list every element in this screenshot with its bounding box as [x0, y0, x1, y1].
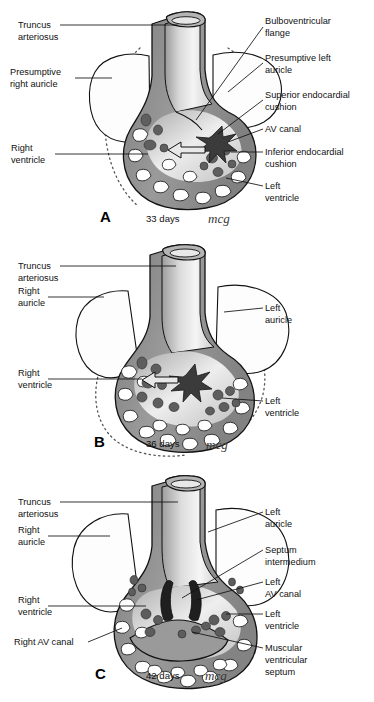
panel-age-a: 33 days — [146, 213, 180, 224]
label-presumptive-left-auricle-a-line2: auricle — [265, 65, 292, 75]
label-right-auricle-b: Right — [18, 286, 40, 296]
label-left-ventricle-a: Left — [265, 181, 281, 191]
label-left-ventricle-a-line2: ventricle — [265, 193, 299, 203]
artist-signature-b: mcg — [206, 437, 228, 452]
embryonic-heart-development-figure: Truncus arteriosus Presumptive right aur… — [0, 0, 374, 702]
label-presumptive-left-auricle-a: Presumptive left — [265, 53, 331, 63]
label-muscular-ventricular-septum-c-line2: ventricular — [265, 655, 307, 665]
label-presumptive-right-auricle-a: Presumptive — [10, 67, 61, 77]
label-muscular-ventricular-septum-c-line3: septum — [265, 667, 295, 677]
label-truncus-arteriosus-a: Truncus — [18, 20, 51, 30]
label-right-auricle-b-line2: auricle — [18, 298, 45, 308]
label-presumptive-right-auricle-a-line2: right auricle — [10, 79, 58, 89]
label-inferior-endocardial-cushion-a-line2: cushion — [265, 159, 297, 169]
label-left-auricle-c-line2: auricle — [265, 519, 292, 529]
label-muscular-ventricular-septum-c: Muscular — [265, 643, 302, 653]
label-truncus-arteriosus-a-line2: arteriosus — [18, 32, 59, 42]
label-left-auricle-b: Left — [265, 303, 281, 313]
label-superior-endocardial-cushion-a: Superior endocardial — [265, 90, 350, 100]
truncus-inner-rim-c — [171, 480, 201, 488]
label-truncus-arteriosus-c: Truncus — [18, 497, 51, 507]
label-superior-endocardial-cushion-a-line2: cushion — [265, 102, 297, 112]
label-truncus-arteriosus-c-line2: arteriosus — [18, 509, 59, 519]
label-inferior-endocardial-cushion-a: Inferior endocardial — [265, 147, 344, 157]
label-left-av-canal-c: Left — [265, 577, 281, 587]
label-truncus-arteriosus-b: Truncus — [18, 261, 51, 271]
label-right-ventricle-a-line2: ventricle — [11, 155, 45, 165]
panel-c: Truncus arteriosus Right auricle Right v… — [0, 470, 374, 702]
label-bulboventricular-flange-a: Bulboventricular — [265, 16, 331, 26]
label-left-ventricle-c: Left — [265, 609, 281, 619]
label-septum-intermedium-c-line2: intermedium — [265, 557, 316, 567]
label-right-ventricle-c: Right — [18, 595, 40, 605]
truncus-inner-rim-b — [170, 249, 200, 257]
label-right-auricle-c-line2: auricle — [18, 537, 45, 547]
label-right-ventricle-b: Right — [18, 368, 40, 378]
label-bulboventricular-flange-a-line2: flange — [265, 28, 290, 38]
label-right-ventricle-c-line2: ventricle — [18, 607, 52, 617]
panel-letter-a: A — [100, 208, 111, 225]
truncus-inner-rim-a — [172, 17, 200, 25]
label-right-av-canal-c: Right AV canal — [14, 637, 74, 647]
artist-signature-c: mcg — [205, 668, 227, 683]
panel-age-b: 36 days — [146, 438, 180, 449]
panel-age-c: 42 days — [146, 670, 180, 681]
panel-b: Truncus arteriosus Right auricle Right v… — [0, 235, 374, 470]
label-left-ventricle-b: Left — [265, 396, 281, 406]
label-left-auricle-c: Left — [265, 507, 281, 517]
label-right-ventricle-b-line2: ventricle — [18, 380, 52, 390]
label-av-canal-a: AV canal — [265, 124, 301, 134]
label-left-ventricle-c-line2: ventricle — [265, 621, 299, 631]
panel-letter-b: B — [94, 433, 105, 450]
truncus-lumen-b — [162, 249, 214, 353]
label-right-ventricle-a: Right — [11, 143, 33, 153]
label-left-ventricle-b-line2: ventricle — [265, 408, 299, 418]
label-left-auricle-b-line2: auricle — [265, 315, 292, 325]
label-truncus-arteriosus-b-line2: arteriosus — [18, 273, 59, 283]
panel-letter-c: C — [95, 665, 106, 682]
truncus-lumen-c — [162, 480, 218, 588]
artist-signature-a: mcg — [208, 211, 230, 226]
label-septum-intermedium-c: Septum — [265, 545, 297, 555]
label-left-av-canal-c-line2: AV canal — [265, 589, 301, 599]
label-right-auricle-c: Right — [18, 525, 40, 535]
panel-a: Truncus arteriosus Presumptive right aur… — [0, 0, 374, 235]
